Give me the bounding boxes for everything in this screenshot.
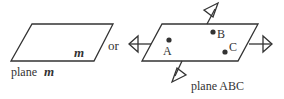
point-a-label: A bbox=[163, 44, 172, 58]
point-c-dot bbox=[222, 49, 227, 54]
plane-abc-caption: plane ABC bbox=[191, 79, 244, 93]
plane-m-caption-letter: m bbox=[44, 64, 54, 79]
plane-diagram: m plane m or A B C plane ABC bbox=[0, 0, 284, 99]
plane-m-figure bbox=[11, 24, 113, 61]
or-connector: or bbox=[108, 38, 120, 53]
point-b-dot bbox=[210, 29, 215, 34]
plane-m-caption-prefix: plane bbox=[11, 65, 37, 79]
point-a-dot bbox=[166, 37, 171, 42]
point-b-label: B bbox=[217, 27, 225, 41]
point-c-label: C bbox=[229, 40, 237, 54]
plane-m-label: m bbox=[74, 45, 84, 60]
plane-abc-figure bbox=[129, 3, 272, 82]
